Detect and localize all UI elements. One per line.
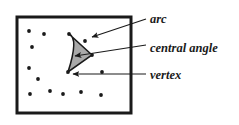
peg-dot xyxy=(48,89,52,93)
peg-dot xyxy=(61,92,65,96)
peg-dot xyxy=(79,90,83,94)
geometry-figure: arc central angle vertex xyxy=(0,0,239,125)
peg-dot xyxy=(27,66,31,70)
peg-dot xyxy=(42,32,46,36)
peg-dot xyxy=(30,45,34,49)
figure-canvas: arc central angle vertex xyxy=(0,0,239,125)
peg-dot xyxy=(36,77,40,81)
peg-dot xyxy=(83,39,87,43)
peg-dot xyxy=(27,29,31,33)
peg-dot xyxy=(100,70,104,74)
peg-dot xyxy=(99,93,103,97)
peg-dot xyxy=(28,92,32,96)
label-central-angle: central angle xyxy=(150,41,218,55)
label-arc: arc xyxy=(150,12,167,26)
label-vertex: vertex xyxy=(150,68,181,82)
